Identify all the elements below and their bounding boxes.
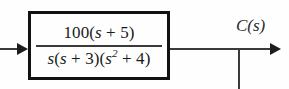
- numerator: 100(s + 5): [63, 24, 134, 45]
- input-arrow-icon: [17, 43, 28, 55]
- numerator-close-paren: ): [129, 23, 135, 42]
- denominator-factor2-operator: +: [67, 49, 85, 68]
- denominator: s(s + 3)(s2 + 4): [48, 47, 151, 68]
- numerator-operator: +: [102, 23, 120, 42]
- block-diagram: ) 100(s + 5) s(s + 3)(s2 + 4) C(s): [0, 0, 289, 89]
- denominator-factor3-close-paren: ): [145, 49, 151, 68]
- transfer-function-fraction: 100(s + 5) s(s + 3)(s2 + 4): [31, 24, 167, 68]
- feedback-takeoff-branch: [238, 49, 240, 89]
- transfer-function-block: 100(s + 5) s(s + 3)(s2 + 4): [28, 11, 170, 80]
- output-arrow-icon: [270, 43, 281, 55]
- denominator-factor3-constant: 4: [136, 49, 145, 68]
- denominator-factor2-variable: s: [60, 49, 67, 68]
- numerator-coefficient: 100: [63, 23, 89, 42]
- denominator-factor2-constant: 3: [85, 49, 94, 68]
- denominator-factor3-operator: +: [118, 49, 136, 68]
- output-wire: [170, 48, 272, 50]
- numerator-constant: 5: [120, 23, 129, 42]
- denominator-factor3-variable: s: [105, 49, 112, 68]
- output-signal-label: C(s): [236, 17, 265, 34]
- numerator-variable: s: [95, 23, 102, 42]
